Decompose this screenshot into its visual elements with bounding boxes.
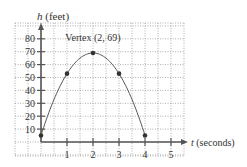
- x-axis-arrow-icon: [181, 139, 188, 145]
- y-tick-label: 40: [25, 85, 35, 96]
- y-tick-label: 70: [25, 46, 35, 57]
- y-tick-label: 60: [25, 59, 35, 70]
- x-tick-label: 4: [143, 149, 148, 160]
- x-tick-label: 5: [169, 149, 174, 160]
- y-axis-arrow-icon: [38, 23, 44, 30]
- parabola-chart: 123451020304050607080 h (feet) t (second…: [0, 0, 247, 167]
- x-axis-label: t (seconds): [191, 137, 235, 149]
- data-point: [143, 133, 148, 138]
- data-point: [91, 51, 96, 56]
- x-tick-label: 2: [91, 149, 96, 160]
- y-tick-label: 80: [25, 33, 35, 44]
- y-tick-label: 30: [25, 98, 35, 109]
- y-tick-label: 10: [25, 124, 35, 135]
- ticks: 123451020304050607080: [25, 33, 174, 160]
- vertex-annotation: Vertex (2, 69): [65, 32, 120, 44]
- y-axis-label: h (feet): [37, 10, 69, 23]
- annotations: Vertex (2, 69): [65, 32, 120, 44]
- y-tick-label: 20: [25, 111, 35, 122]
- data-point: [65, 71, 70, 76]
- data-point: [117, 71, 122, 76]
- x-tick-label: 3: [117, 149, 122, 160]
- x-tick-label: 1: [65, 149, 70, 160]
- data-point: [39, 133, 44, 138]
- y-tick-label: 50: [25, 72, 35, 83]
